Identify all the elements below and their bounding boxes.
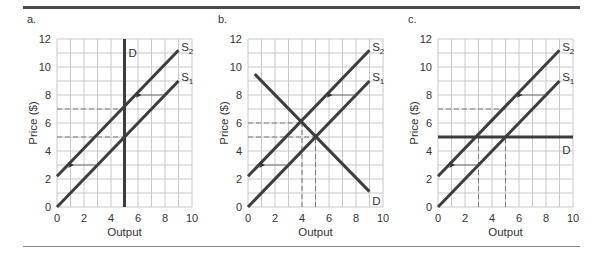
x-tick-label: 4: [489, 212, 495, 224]
panel-label: c.: [408, 13, 417, 25]
y-tick-label: 12: [39, 33, 51, 45]
x-tick-label: 8: [353, 212, 359, 224]
curve-label-d: D: [372, 195, 380, 207]
y-tick-label: 10: [420, 61, 432, 73]
y-tick-label: 4: [45, 145, 51, 157]
panel-label: b.: [218, 13, 227, 25]
x-tick-label: 2: [462, 212, 468, 224]
x-tick-label: 10: [567, 212, 579, 224]
y-tick-label: 8: [236, 89, 242, 101]
curve-s2: [248, 50, 370, 176]
curve-d: [255, 74, 370, 192]
x-tick-label: 0: [54, 212, 60, 224]
x-tick-label: 2: [81, 212, 87, 224]
x-axis-title: Output: [298, 226, 333, 238]
x-tick-label: 0: [435, 212, 441, 224]
y-tick-label: 0: [45, 201, 51, 213]
y-tick-label: 8: [426, 89, 432, 101]
curve-label-d: D: [129, 47, 137, 59]
chart-panel-c: c.0246810120246810OutputPrice ($)S1S2D: [408, 13, 579, 238]
y-tick-label: 2: [426, 173, 432, 185]
x-tick-label: 0: [245, 212, 251, 224]
y-tick-label: 6: [236, 117, 242, 129]
y-tick-label: 4: [236, 145, 242, 157]
y-tick-label: 4: [426, 145, 432, 157]
y-tick-label: 2: [45, 173, 51, 185]
y-axis-title: Price ($): [408, 101, 420, 145]
x-tick-label: 6: [326, 212, 332, 224]
y-tick-label: 6: [45, 117, 51, 129]
y-tick-label: 12: [230, 33, 242, 45]
y-tick-label: 6: [426, 117, 432, 129]
x-tick-label: 6: [516, 212, 522, 224]
supply-demand-figure: a.0246810120246810OutputPrice ($)S1S2D b…: [0, 0, 602, 257]
y-axis-title: Price ($): [218, 101, 230, 145]
x-axis-title: Output: [107, 226, 142, 238]
curve-label-d: D: [562, 144, 570, 156]
x-tick-label: 10: [186, 212, 198, 224]
y-tick-label: 10: [39, 61, 51, 73]
curve-s1: [248, 81, 370, 207]
x-tick-label: 8: [543, 212, 549, 224]
x-tick-label: 10: [377, 212, 389, 224]
curve-s2: [57, 50, 179, 176]
x-axis-title: Output: [488, 226, 523, 238]
x-tick-label: 6: [135, 212, 141, 224]
curve-s1: [438, 81, 560, 207]
chart-panel-a: a.0246810120246810OutputPrice ($)S1S2D: [27, 13, 198, 238]
x-tick-label: 4: [299, 212, 305, 224]
y-tick-label: 8: [45, 89, 51, 101]
panel-label: a.: [27, 13, 36, 25]
y-tick-label: 10: [230, 61, 242, 73]
y-axis-title: Price ($): [27, 101, 39, 145]
curve-s1: [57, 81, 179, 207]
x-tick-label: 2: [272, 212, 278, 224]
curve-s2: [438, 50, 560, 176]
y-tick-label: 2: [236, 173, 242, 185]
chart-panel-b: b.0246810120246810OutputPrice ($)S1S2D: [218, 13, 389, 238]
y-tick-label: 0: [426, 201, 432, 213]
y-tick-label: 0: [236, 201, 242, 213]
y-tick-label: 12: [420, 33, 432, 45]
x-tick-label: 4: [108, 212, 114, 224]
x-tick-label: 8: [162, 212, 168, 224]
